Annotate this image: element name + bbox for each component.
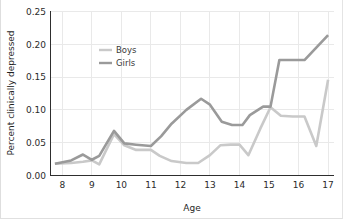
x-axis-title: Age bbox=[183, 203, 201, 213]
series-line-boys bbox=[55, 80, 328, 165]
axis-lines bbox=[50, 11, 334, 176]
y-tick-label: 0.05 bbox=[26, 138, 46, 148]
x-tick-label: 11 bbox=[145, 180, 156, 190]
x-tick-label: 14 bbox=[234, 180, 246, 190]
data-series-group bbox=[55, 35, 328, 164]
chart-legend: BoysGirls bbox=[99, 45, 137, 68]
legend-label-girls: Girls bbox=[116, 58, 136, 68]
x-tick-label: 8 bbox=[59, 180, 65, 190]
y-tick-label: 0.25 bbox=[26, 7, 46, 17]
y-tick-labels: 0.000.050.100.150.200.25 bbox=[26, 7, 46, 181]
x-tick-label: 12 bbox=[175, 180, 186, 190]
x-tick-label: 16 bbox=[293, 180, 305, 190]
x-tick-label: 10 bbox=[116, 180, 128, 190]
y-tick-label: 0.20 bbox=[26, 40, 46, 50]
gridlines bbox=[51, 12, 335, 176]
x-tick-label: 15 bbox=[263, 180, 274, 190]
x-tick-label: 9 bbox=[89, 180, 95, 190]
series-line-girls bbox=[55, 35, 328, 164]
x-tick-label: 17 bbox=[322, 180, 333, 190]
y-tick-label: 0.00 bbox=[26, 171, 46, 181]
line-chart: 0.000.050.100.150.200.25 891011121314151… bbox=[1, 0, 343, 219]
x-tick-label: 13 bbox=[204, 180, 215, 190]
y-tick-label: 0.10 bbox=[26, 105, 46, 115]
x-tick-labels: 891011121314151617 bbox=[59, 180, 333, 190]
legend-label-boys: Boys bbox=[116, 45, 137, 55]
chart-figure: 0.000.050.100.150.200.25 891011121314151… bbox=[0, 0, 343, 219]
y-tick-label: 0.15 bbox=[26, 72, 46, 82]
y-axis-title: Percent clinically depressed bbox=[6, 30, 16, 155]
